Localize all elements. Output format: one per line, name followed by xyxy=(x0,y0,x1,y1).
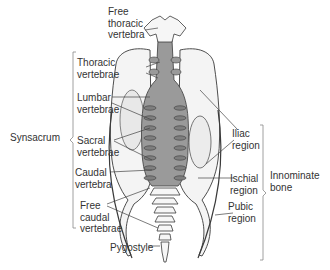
free-caudal-vertebrae xyxy=(150,188,180,240)
label-sacral-vertebrae: Sacral vertebrae xyxy=(77,135,119,158)
diagram-canvas: Free thoracic vertebra Thoracic vertebra… xyxy=(0,0,330,270)
label-pygostyle: Pygostyle xyxy=(110,242,153,254)
innominate-bracket xyxy=(260,125,266,260)
label-caudal-vertebra: Caudal vertebra xyxy=(75,167,112,190)
label-innominate-bone: Innominate bone xyxy=(270,170,319,193)
pygostyle xyxy=(161,242,169,262)
iliac-fossa-right xyxy=(189,116,211,168)
label-thoracic-vertebrae: Thoracic vertebrae xyxy=(77,57,119,80)
label-ischial-region: Ischial region xyxy=(230,173,258,196)
synsacrum-bracket xyxy=(70,52,76,228)
label-free-thoracic-vertebra: Free thoracic vertebra xyxy=(108,6,145,41)
label-pubic-region: Pubic region xyxy=(228,201,256,224)
label-iliac-region: Iliac region xyxy=(232,128,260,151)
label-free-caudal-vertebrae: Free caudal vertebrae xyxy=(80,200,122,235)
label-lumbar-vertebrae: Lumbar vertebrae xyxy=(77,92,119,115)
label-synsacrum: Synsacrum xyxy=(10,132,60,144)
iliac-fossa-left xyxy=(120,90,144,150)
